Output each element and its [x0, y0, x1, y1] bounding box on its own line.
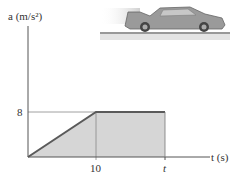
x-tick-10: 10: [90, 162, 102, 174]
y-tick-8: 8: [17, 106, 23, 118]
y-axis-label: a (m/s²): [8, 10, 42, 23]
x-axis-label: t (s): [211, 151, 229, 164]
race-car-illustration: [100, 7, 230, 40]
acceleration-time-diagram: a (m/s²) 8 10 t t (s): [0, 0, 240, 182]
area-under-curve: [28, 112, 165, 157]
x-tick-t: t: [163, 162, 167, 174]
